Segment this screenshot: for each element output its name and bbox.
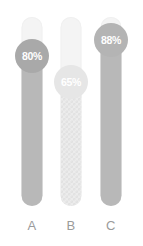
progress-bar-chart: 80% A 65% B 88% C (0, 0, 143, 246)
bar-column-b: 65% B (51, 0, 91, 246)
value-badge-c[interactable]: 88% (94, 23, 128, 57)
bar-column-a: 80% A (12, 0, 52, 246)
axis-label-b: B (51, 218, 91, 233)
value-badge-a-label: 80% (22, 51, 42, 62)
axis-label-a: A (12, 218, 52, 233)
value-badge-b[interactable]: 65% (54, 65, 88, 99)
value-badge-a[interactable]: 80% (15, 39, 49, 73)
axis-label-c: C (91, 218, 131, 233)
value-badge-c-label: 88% (101, 35, 121, 46)
value-badge-b-label: 65% (61, 77, 81, 88)
bar-column-c: 88% C (91, 0, 131, 246)
